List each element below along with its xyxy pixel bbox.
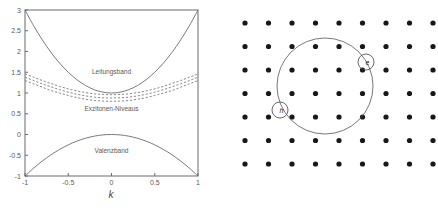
lattice-dot: [407, 44, 412, 49]
lattice-dot: [383, 138, 388, 143]
lattice-dot: [407, 67, 412, 72]
lattice-dot: [266, 91, 271, 96]
lattice-dot: [360, 138, 365, 143]
lattice-dot: [266, 67, 271, 72]
x-tick-label: -0.5: [62, 179, 74, 186]
lattice-dot-group: [242, 20, 435, 166]
lattice-dot: [336, 138, 341, 143]
lattice-dot: [242, 138, 247, 143]
lattice-dot: [383, 91, 388, 96]
exciton-figure: -1-0.500.511.522.53 -1-0.500.51 Leitungs…: [0, 0, 438, 210]
exciton-orbit-circle: [277, 38, 373, 134]
lattice-dot: [430, 20, 435, 25]
lattice-dot: [266, 161, 271, 166]
lattice-dot: [360, 114, 365, 119]
lattice-dot: [289, 20, 294, 25]
lattice-dot: [266, 20, 271, 25]
lattice-dot: [430, 44, 435, 49]
lattice-dot: [407, 91, 412, 96]
curve-valenzband: [25, 135, 198, 177]
hole-marker-label: h: [280, 107, 284, 114]
lattice-dot: [336, 20, 341, 25]
lattice-dot: [313, 138, 318, 143]
lattice-dot: [242, 91, 247, 96]
y-tick-label: 0.5: [11, 110, 21, 117]
lattice-dot: [336, 114, 341, 119]
lattice-dot: [383, 44, 388, 49]
x-tick-label: 0: [110, 179, 114, 186]
lattice-dot: [430, 91, 435, 96]
band-structure-svg: -1-0.500.511.522.53 -1-0.500.51 Leitungs…: [0, 0, 220, 210]
lattice-dot: [360, 91, 365, 96]
lattice-dot: [407, 161, 412, 166]
lattice-dot: [407, 138, 412, 143]
lattice-dot: [242, 114, 247, 119]
lattice-dot: [430, 138, 435, 143]
y-tick-label: 1.5: [11, 69, 21, 76]
lattice-dot: [360, 44, 365, 49]
lattice-dot: [313, 91, 318, 96]
lattice-dot: [430, 114, 435, 119]
lattice-dot: [242, 44, 247, 49]
lattice-dot: [289, 67, 294, 72]
lattice-dot: [336, 44, 341, 49]
lattice-dot: [266, 114, 271, 119]
lattice-dot: [383, 161, 388, 166]
electron-marker-label: e: [366, 59, 370, 66]
y-tick-label: -0.5: [9, 152, 21, 159]
lattice-dot: [383, 20, 388, 25]
y-tick-label: 2.5: [11, 27, 21, 34]
curve-exzitonen-niveau-1: [25, 74, 198, 95]
y-tick-label: -1: [15, 173, 21, 180]
lattice-dot: [336, 67, 341, 72]
lattice-dot: [383, 114, 388, 119]
band-annotation: Valenzband: [95, 147, 129, 154]
lattice-dot: [313, 161, 318, 166]
lattice-dot: [242, 161, 247, 166]
lattice-dot: [430, 161, 435, 166]
particle-group: eh: [272, 54, 374, 118]
lattice-svg: eh: [220, 0, 438, 210]
y-tick-label: 1: [17, 90, 21, 97]
band-annotation: Leitungsband: [92, 68, 131, 76]
lattice-dot: [289, 138, 294, 143]
lattice-dot: [336, 161, 341, 166]
y-tick-label: 3: [17, 7, 21, 14]
lattice-dot: [313, 20, 318, 25]
band-structure-plot: -1-0.500.511.522.53 -1-0.500.51 Leitungs…: [0, 0, 220, 210]
lattice-dot: [266, 138, 271, 143]
x-axis-ticks: -1-0.500.51: [22, 173, 200, 186]
lattice-dot: [407, 20, 412, 25]
lattice-dot: [313, 114, 318, 119]
lattice-dot: [360, 161, 365, 166]
band-annotations: LeitungsbandExzitonen-NiveausValenzband: [84, 68, 139, 154]
x-axis-title: k: [109, 189, 115, 200]
lattice-dot: [289, 44, 294, 49]
curve-leitungsband: [25, 10, 198, 93]
lattice-dot: [336, 91, 341, 96]
lattice-dot: [430, 67, 435, 72]
band-annotation: Exzitonen-Niveaus: [84, 105, 139, 112]
lattice-dot: [313, 44, 318, 49]
crystal-lattice-diagram: eh: [220, 0, 438, 210]
y-tick-label: 2: [17, 48, 21, 55]
lattice-dot: [289, 161, 294, 166]
lattice-dot: [360, 20, 365, 25]
lattice-dot: [242, 67, 247, 72]
y-tick-label: 0: [17, 131, 21, 138]
lattice-dot: [289, 91, 294, 96]
lattice-dot: [242, 20, 247, 25]
x-tick-label: 1: [196, 179, 200, 186]
lattice-dot: [266, 44, 271, 49]
x-tick-label: 0.5: [150, 179, 160, 186]
lattice-dot: [383, 67, 388, 72]
x-tick-label: -1: [22, 179, 28, 186]
lattice-dot: [407, 114, 412, 119]
lattice-dot: [313, 67, 318, 72]
